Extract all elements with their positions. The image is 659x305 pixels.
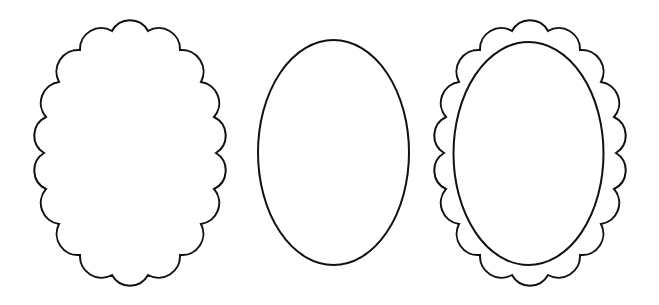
plain-oval-frame — [258, 40, 409, 265]
scalloped-oval-frame — [34, 20, 225, 285]
inner-oval-outline — [454, 42, 604, 265]
shapes-canvas — [0, 0, 659, 305]
scalloped-oval-outline — [34, 20, 225, 285]
plain-oval-outline — [258, 40, 409, 265]
scalloped-oval-with-inner-oval-frame — [434, 20, 625, 285]
